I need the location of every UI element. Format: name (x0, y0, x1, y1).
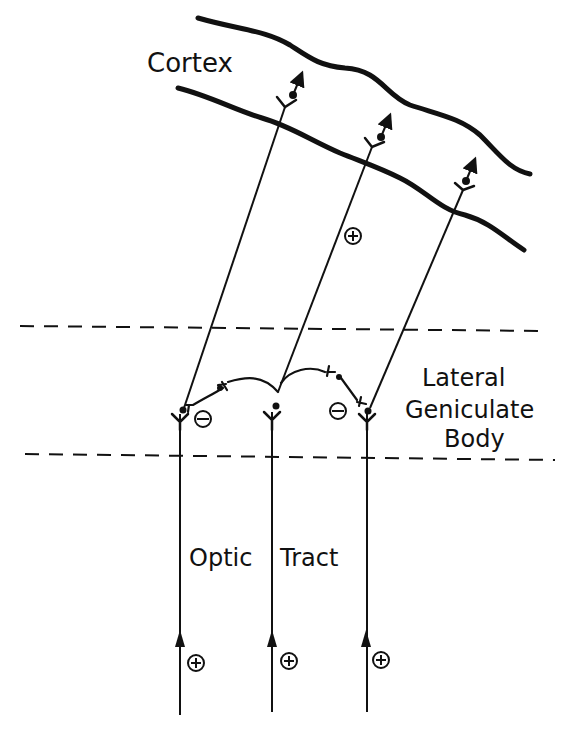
lgn-circuit-diagram: Cortex Lateral Geniculate Body Optic Tra… (0, 0, 570, 730)
cortical-synapse-icons (277, 97, 474, 190)
label-lgn-body: Body (444, 425, 505, 453)
excitatory-plus-icon (284, 656, 294, 666)
sign-circles (188, 228, 389, 671)
label-optic: Optic (189, 544, 252, 572)
geniculocortical-axons (184, 107, 463, 408)
lgn-lower-boundary (25, 454, 555, 460)
sign-glyphs (191, 231, 386, 668)
label-cortex: Cortex (147, 48, 233, 78)
excitatory-plus-icon (376, 655, 386, 665)
excitatory-plus-icon (348, 231, 358, 241)
lgn-upper-boundary (20, 326, 545, 331)
label-lgn-lateral: Lateral (422, 364, 506, 392)
cortex-lower-boundary (178, 88, 524, 250)
label-tract: Tract (279, 544, 338, 572)
excitatory-plus-icon (191, 658, 201, 668)
cortex-upper-boundary (198, 18, 530, 174)
label-lgn-geniculate: Geniculate (405, 396, 534, 424)
